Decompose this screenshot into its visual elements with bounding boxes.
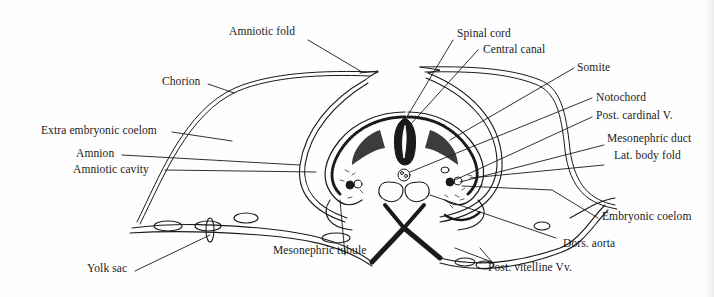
label-embryonic-coelom: Embryonic coelom: [602, 211, 691, 223]
label-post-cardinal-v: Post. cardinal V.: [596, 110, 673, 122]
label-chorion: Chorion: [162, 76, 200, 88]
label-dors-aorta: Dors. aorta: [563, 238, 615, 250]
label-mesonephric-duct: Mesonephric duct: [607, 133, 691, 145]
label-mesonephric-tubule: Mesonephric tubule: [273, 245, 366, 257]
label-amniotic-fold: Amniotic fold: [229, 26, 295, 38]
label-spinal-cord: Spinal cord: [457, 28, 511, 40]
page-edge-shadow: [706, 0, 714, 297]
label-yolk-sac: Yolk sac: [87, 263, 127, 275]
chorion-membrane-right: [420, 67, 617, 209]
dorsal-aortae: [379, 182, 429, 202]
label-extra-embryonic-coelom: Extra embryonic coelom: [41, 125, 157, 137]
label-lat-body-fold: Lat. body fold: [614, 150, 681, 162]
notochord: [398, 169, 410, 181]
label-notochord: Notochord: [596, 92, 646, 104]
label-amnion: Amnion: [76, 148, 114, 160]
embryo-cross-section-diagram: Amniotic fold Chorion Extra embryonic co…: [0, 0, 714, 297]
gut-splanchnopleure: [372, 205, 440, 262]
cardinal-veins: [346, 167, 462, 189]
label-post-vitelline-vv: Post. vitelline Vv.: [488, 262, 572, 274]
label-somite: Somite: [577, 62, 610, 74]
label-amniotic-cavity: Amniotic cavity: [73, 164, 149, 176]
spinal-cord: [394, 118, 415, 165]
label-central-canal: Central canal: [483, 44, 545, 56]
